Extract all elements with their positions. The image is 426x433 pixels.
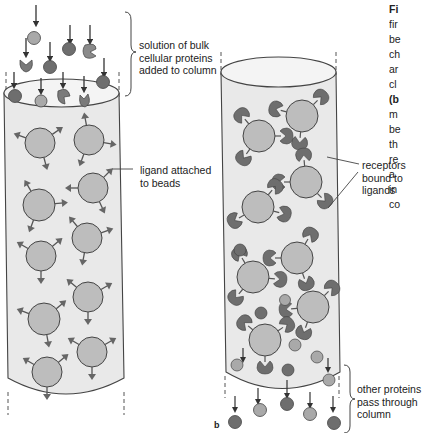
panel-mark: b — [214, 419, 220, 432]
caption-line: fir — [389, 17, 426, 32]
caption-line: ch — [389, 47, 426, 62]
caption-line: Fi — [389, 2, 426, 17]
caption-line: ar — [389, 62, 426, 77]
caption-line: a — [389, 167, 426, 182]
caption-line: m — [389, 107, 426, 122]
label-ligand-attached-to-beads: ligand attached to beads — [140, 164, 211, 189]
label-other-proteins-pass-through: other proteins pass through column — [357, 383, 421, 421]
caption-line: in — [389, 182, 426, 197]
caption-line: (b — [389, 92, 426, 107]
caption-line: cl — [389, 77, 426, 92]
caption-line: be — [389, 32, 426, 47]
caption-line: th — [389, 137, 426, 152]
caption-line: re — [389, 152, 426, 167]
label-solution-of-bulk-proteins: solution of bulk cellular proteins added… — [139, 39, 217, 77]
caption-line: co — [389, 197, 426, 212]
figure-caption-fragment: Fi fir be ch ar cl (b m be th re a in co — [389, 2, 426, 212]
caption-line: be — [389, 122, 426, 137]
